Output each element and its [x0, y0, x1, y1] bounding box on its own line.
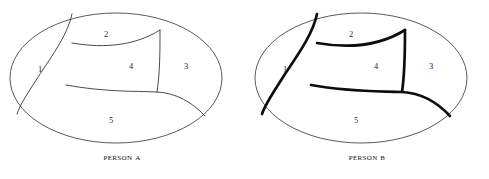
- panel-person-b: 1 2 3 4 5 Person B: [245, 0, 489, 179]
- ellipse-outline-b: [255, 13, 467, 143]
- diagram-person-b: 1 2 3 4 5: [245, 0, 489, 155]
- caption-person-b: Person B: [245, 152, 489, 162]
- region-label-5-a: 5: [109, 115, 113, 125]
- region-label-3-a: 3: [184, 61, 188, 71]
- region-label-2-b: 2: [349, 29, 353, 39]
- diagram-person-a: 1 2 3 4 5: [0, 0, 244, 155]
- region-label-2-a: 2: [104, 29, 108, 39]
- panel-person-a: 1 2 3 4 5 Person A: [0, 0, 244, 179]
- ellipse-outline-a: [10, 13, 222, 143]
- region-label-1-b: 1: [283, 64, 287, 74]
- partition-figure: 1 2 3 4 5 Person A 1 2 3 4 5 Person B: [0, 0, 489, 179]
- region-label-3-b: 3: [429, 61, 433, 71]
- region-label-1-a: 1: [38, 64, 42, 74]
- region-label-5-b: 5: [354, 115, 358, 125]
- caption-person-a: Person A: [0, 152, 244, 162]
